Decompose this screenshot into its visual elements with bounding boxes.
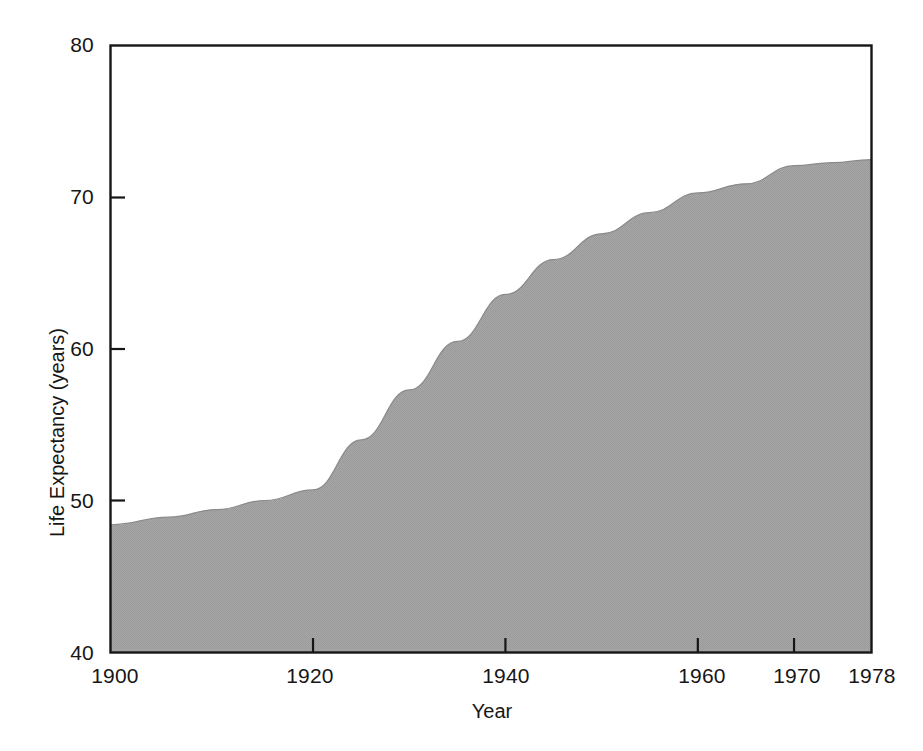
x-axis-title: Year (472, 700, 512, 723)
y-tick-label-40: 40 (52, 641, 94, 665)
x-tick-label-1900: 1900 (91, 664, 139, 688)
x-tick-label-1960: 1960 (678, 664, 726, 688)
chart-figure: 80 70 60 50 40 1900 1920 1940 1960 1970 … (0, 0, 923, 751)
area-chart-plot (0, 0, 923, 751)
x-tick-label-1940: 1940 (482, 664, 530, 688)
x-tick-label-1920: 1920 (286, 664, 334, 688)
y-tick-label-70: 70 (52, 185, 94, 209)
y-tick-label-80: 80 (52, 33, 94, 57)
x-tick-label-1970: 1970 (773, 664, 821, 688)
x-tick-label-1978: 1978 (848, 664, 896, 688)
y-axis-title: Life Expectancy (years) (46, 328, 69, 537)
